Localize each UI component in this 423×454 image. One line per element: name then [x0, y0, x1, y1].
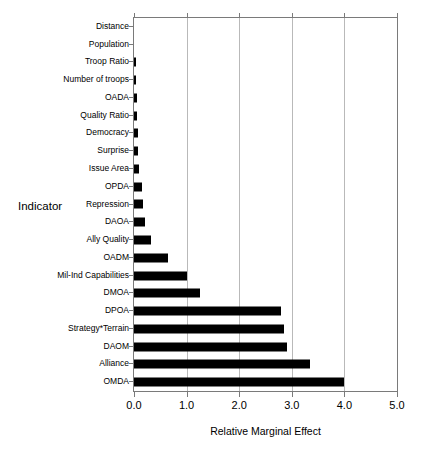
- bar: [134, 200, 143, 209]
- bar-row: [134, 160, 397, 178]
- bar: [134, 378, 344, 387]
- y-axis-tick-label: Troop Ratio: [9, 56, 129, 66]
- y-axis-tick-label: OADA: [9, 92, 129, 102]
- bar-row: [134, 71, 397, 89]
- x-axis-tick-label: 2.0: [219, 399, 259, 411]
- bar-row: [134, 89, 397, 107]
- bar: [134, 182, 142, 191]
- bar: [134, 289, 200, 298]
- y-axis-tick-label: DMOA: [9, 287, 129, 297]
- bar-row: [134, 320, 397, 338]
- bar: [134, 76, 136, 85]
- x-axis-tick: [397, 392, 398, 397]
- y-axis-tick: [129, 44, 133, 45]
- y-axis-tick-label: Alliance: [9, 358, 129, 368]
- y-axis-tick-label: Population: [9, 39, 129, 49]
- y-axis-tick: [129, 186, 133, 187]
- bar-row: [134, 213, 397, 231]
- x-axis-tick-label: 4.0: [324, 399, 364, 411]
- y-axis-tick: [129, 239, 133, 240]
- y-axis-tick-label: Surprise: [9, 145, 129, 155]
- bar: [134, 218, 145, 227]
- y-axis-tick-label: Distance: [9, 21, 129, 31]
- y-axis-tick-label: DAOA: [9, 216, 129, 226]
- bar: [134, 58, 136, 67]
- y-axis-tick: [129, 328, 133, 329]
- x-axis-tick-top: [344, 13, 345, 17]
- y-axis-tick-label: Quality Ratio: [9, 110, 129, 120]
- y-axis-tick-label: OMDA: [9, 376, 129, 386]
- x-axis-tick: [134, 392, 135, 397]
- y-axis-title: Indicator: [18, 200, 88, 212]
- x-axis-tick: [187, 392, 188, 397]
- x-axis-tick-top: [292, 13, 293, 17]
- y-axis-tick: [129, 257, 133, 258]
- bar-chart: DistancePopulationTroop RatioNumber of t…: [0, 0, 423, 454]
- bar-row: [134, 142, 397, 160]
- x-axis-tick-label: 1.0: [167, 399, 207, 411]
- bar-row: [134, 125, 397, 143]
- y-axis-tick: [129, 310, 133, 311]
- bar-row: [134, 107, 397, 125]
- bar-row: [134, 267, 397, 285]
- bars-layer: [134, 18, 398, 391]
- bar-row: [134, 36, 397, 54]
- x-axis-tick: [344, 392, 345, 397]
- bar: [134, 307, 281, 316]
- y-axis-tick-label: Number of troops: [9, 74, 129, 84]
- bar-row: [134, 196, 397, 214]
- bar: [134, 253, 168, 262]
- y-axis-tick-label: OPDA: [9, 181, 129, 191]
- y-axis-tick-label: Democracy: [9, 127, 129, 137]
- bar: [134, 271, 187, 280]
- bar-row: [134, 302, 397, 320]
- y-axis-tick: [129, 275, 133, 276]
- x-axis-tick-label: 5.0: [377, 399, 417, 411]
- x-axis-tick-label: 0.0: [114, 399, 154, 411]
- bar: [134, 129, 138, 138]
- y-axis-tick: [129, 204, 133, 205]
- y-axis-tick-label: DAOM: [9, 341, 129, 351]
- x-axis-tick-label: 3.0: [272, 399, 312, 411]
- y-axis-tick: [129, 292, 133, 293]
- bar-row: [134, 373, 397, 391]
- y-axis-tick-label: Ally Quality: [9, 234, 129, 244]
- y-axis-tick-label: Mil-Ind Capabilities: [9, 270, 129, 280]
- y-axis-tick-label: Strategy*Terrain: [9, 323, 129, 333]
- y-axis-tick: [129, 221, 133, 222]
- y-axis-tick: [129, 346, 133, 347]
- y-axis-tick-label: Issue Area: [9, 163, 129, 173]
- y-axis-tick-label: OADM: [9, 252, 129, 262]
- y-axis-tick: [129, 79, 133, 80]
- y-axis-tick: [129, 132, 133, 133]
- y-axis-tick: [129, 26, 133, 27]
- bar-row: [134, 178, 397, 196]
- x-axis-tick-top: [187, 13, 188, 17]
- bar-row: [134, 355, 397, 373]
- bar: [134, 360, 310, 369]
- bar-row: [134, 18, 397, 36]
- x-axis-tick: [239, 392, 240, 397]
- y-axis-tick: [129, 363, 133, 364]
- y-axis-tick: [129, 115, 133, 116]
- y-axis-tick: [129, 61, 133, 62]
- x-axis-tick-top: [397, 13, 398, 17]
- bar-row: [134, 231, 397, 249]
- bar-row: [134, 284, 397, 302]
- y-axis-tick: [129, 168, 133, 169]
- x-axis-tick-top: [239, 13, 240, 17]
- x-axis-title: Relative Marginal Effect: [133, 425, 398, 437]
- bar: [134, 111, 137, 120]
- bar-row: [134, 249, 397, 267]
- x-axis-tick: [292, 392, 293, 397]
- bar: [134, 164, 139, 173]
- bar: [134, 342, 287, 351]
- y-axis-tick-label: DPOA: [9, 305, 129, 315]
- bar: [134, 324, 284, 333]
- bar: [134, 93, 137, 102]
- bar: [134, 236, 151, 245]
- bar-row: [134, 338, 397, 356]
- y-axis-tick: [129, 97, 133, 98]
- y-axis-tick: [129, 381, 133, 382]
- bar-row: [134, 54, 397, 72]
